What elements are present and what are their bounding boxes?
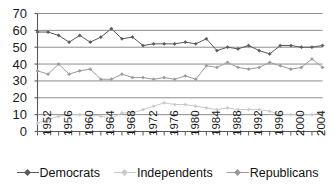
data-point: [226, 46, 229, 49]
legend-marker-republicans-icon: [227, 168, 249, 178]
data-point: [300, 46, 303, 49]
series-republicans: [36, 57, 324, 80]
series-democrats: [36, 27, 324, 55]
data-point: [163, 101, 166, 104]
data-point: [194, 105, 197, 108]
y-axis-label-0: 0: [3, 125, 27, 138]
y-axis-label-60: 60: [3, 24, 27, 37]
data-point: [247, 108, 250, 111]
data-point: [310, 46, 313, 49]
data-point: [36, 30, 39, 33]
data-point: [194, 42, 197, 45]
x-axis-label-2000: 2000: [295, 110, 306, 136]
y-axis-label-50: 50: [3, 41, 27, 54]
y-axis-label-20: 20: [3, 91, 27, 104]
data-point: [258, 66, 261, 69]
party-identification-line-chart: 706050403020100 195219561960196419681972…: [0, 0, 335, 186]
data-point: [173, 42, 176, 45]
data-point: [247, 44, 250, 47]
chart-plot-area: [0, 0, 335, 186]
data-point: [310, 113, 313, 116]
data-point: [110, 78, 113, 81]
data-point: [120, 111, 123, 114]
data-point: [173, 103, 176, 106]
data-point: [163, 76, 166, 79]
legend-label-independents: Independents: [137, 166, 213, 180]
data-point: [78, 113, 81, 116]
data-point: [173, 78, 176, 81]
x-axis-label-1956: 1956: [63, 110, 74, 136]
x-axis-label-2004: 2004: [316, 110, 327, 136]
series-line-republicans: [38, 59, 323, 79]
data-point: [226, 61, 229, 64]
data-point: [184, 41, 187, 44]
data-point: [152, 105, 155, 108]
data-point: [215, 66, 218, 69]
data-point: [141, 76, 144, 79]
data-point: [46, 30, 49, 33]
data-point: [226, 106, 229, 109]
x-axis-label-1984: 1984: [211, 110, 222, 136]
data-point: [163, 42, 166, 45]
data-point: [258, 49, 261, 52]
legend-marker-democrats-icon: [17, 168, 39, 178]
chart-legend: Democrats Independents Republicans: [0, 162, 335, 184]
data-point: [131, 76, 134, 79]
data-point: [99, 115, 102, 118]
x-axis-label-1972: 1972: [148, 110, 159, 136]
x-axis-label-1988: 1988: [232, 110, 243, 136]
data-point: [289, 68, 292, 71]
data-point: [236, 66, 239, 69]
data-point: [36, 69, 39, 72]
legend-item-republicans: Republicans: [227, 166, 319, 180]
data-point: [321, 44, 324, 47]
x-axis-label-1968: 1968: [126, 110, 137, 136]
data-point: [268, 61, 271, 64]
data-point: [289, 113, 292, 116]
data-point: [152, 42, 155, 45]
data-point: [247, 68, 250, 71]
legend-label-republicans: Republicans: [250, 166, 319, 180]
data-point: [78, 69, 81, 72]
x-axis-label-1980: 1980: [190, 110, 201, 136]
x-axis-label-1992: 1992: [253, 110, 264, 136]
data-point: [141, 108, 144, 111]
x-axis-label-1964: 1964: [105, 110, 116, 136]
data-point: [279, 64, 282, 67]
legend-marker-independents-icon: [114, 168, 136, 178]
data-point: [36, 121, 39, 124]
legend-item-independents: Independents: [114, 166, 213, 180]
data-point: [268, 110, 271, 113]
data-point: [152, 78, 155, 81]
data-point: [205, 106, 208, 109]
data-point: [57, 115, 60, 118]
data-point: [289, 44, 292, 47]
x-axis-label-1996: 1996: [274, 110, 285, 136]
x-axis-label-1976: 1976: [169, 110, 180, 136]
y-axis-label-30: 30: [3, 74, 27, 87]
data-point: [120, 73, 123, 76]
data-point: [236, 47, 239, 50]
y-axis-label-10: 10: [3, 108, 27, 121]
series-line-democrats: [38, 29, 323, 54]
x-axis-label-1952: 1952: [42, 110, 53, 136]
data-point: [184, 74, 187, 77]
y-axis-label-70: 70: [3, 7, 27, 20]
x-axis-label-1960: 1960: [84, 110, 95, 136]
legend-item-democrats: Democrats: [17, 166, 100, 180]
data-point: [184, 103, 187, 106]
y-axis-label-40: 40: [3, 58, 27, 71]
legend-label-democrats: Democrats: [40, 166, 100, 180]
